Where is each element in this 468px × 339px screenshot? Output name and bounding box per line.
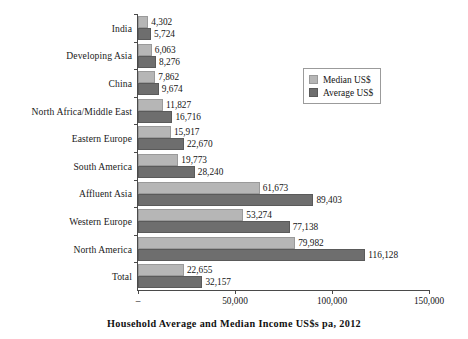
y-axis-tick bbox=[134, 14, 138, 15]
bar-value-label: 77,138 bbox=[293, 222, 319, 232]
chart-category-row: North Africa/Middle East11,82716,716 bbox=[138, 97, 429, 125]
x-axis-tick bbox=[429, 290, 430, 294]
chart-category-row: Eastern Europe15,91722,670 bbox=[138, 124, 429, 152]
x-axis-tick-label: 50,000 bbox=[222, 296, 248, 306]
category-label: Western Europe bbox=[69, 215, 132, 226]
chart-legend: Median US$ Average US$ bbox=[303, 68, 381, 104]
bar-value-label: 15,917 bbox=[174, 127, 200, 137]
bar-average: 5,724 bbox=[138, 28, 151, 40]
y-axis-tick bbox=[134, 180, 138, 181]
income-bar-chart: India4,3025,724Developing Asia6,0638,276… bbox=[0, 0, 468, 339]
y-axis-tick bbox=[134, 152, 138, 153]
category-label: Total bbox=[112, 271, 132, 282]
bar-average: 28,240 bbox=[138, 166, 195, 178]
chart-category-row: Western Europe53,27477,138 bbox=[138, 207, 429, 235]
y-axis-tick bbox=[134, 124, 138, 125]
chart-category-row: Developing Asia6,0638,276 bbox=[138, 42, 429, 70]
bar-average: 116,128 bbox=[138, 249, 365, 261]
chart-category-row: India4,3025,724 bbox=[138, 14, 429, 42]
bar-value-label: 22,655 bbox=[187, 265, 213, 275]
bar-average: 77,138 bbox=[138, 221, 290, 233]
bar-median: 6,063 bbox=[138, 44, 152, 56]
x-axis-tick-label: – bbox=[136, 296, 141, 306]
bar-value-label: 79,982 bbox=[298, 238, 324, 248]
bar-value-label: 4,302 bbox=[151, 17, 172, 27]
bar-average: 16,716 bbox=[138, 111, 172, 123]
legend-label-median: Median US$ bbox=[323, 75, 371, 85]
bar-value-label: 5,724 bbox=[154, 29, 175, 39]
bar-value-label: 16,716 bbox=[175, 112, 201, 122]
bar-average: 9,674 bbox=[138, 83, 159, 95]
bar-value-label: 7,862 bbox=[158, 72, 179, 82]
bar-value-label: 9,674 bbox=[162, 84, 183, 94]
bar-median: 11,827 bbox=[138, 99, 163, 111]
legend-label-average: Average US$ bbox=[323, 88, 373, 98]
plot-area: India4,3025,724Developing Asia6,0638,276… bbox=[138, 14, 429, 290]
y-axis-tick bbox=[134, 97, 138, 98]
bar-average: 8,276 bbox=[138, 56, 156, 68]
y-axis-tick bbox=[134, 235, 138, 236]
bar-average: 32,157 bbox=[138, 276, 202, 288]
category-label: Affluent Asia bbox=[79, 188, 132, 199]
bar-average: 89,403 bbox=[138, 194, 313, 206]
category-label: Eastern Europe bbox=[72, 133, 132, 144]
legend-swatch-median-icon bbox=[309, 75, 318, 84]
x-axis-tick-label: 100,000 bbox=[317, 296, 347, 306]
x-axis-line bbox=[137, 290, 429, 291]
x-axis-tick bbox=[138, 290, 139, 294]
category-label: India bbox=[112, 22, 132, 33]
bar-median: 53,274 bbox=[138, 209, 243, 221]
x-axis-tick bbox=[332, 290, 333, 294]
category-label: South America bbox=[73, 160, 132, 171]
bar-value-label: 8,276 bbox=[159, 57, 180, 67]
legend-item-median[interactable]: Median US$ bbox=[309, 73, 373, 86]
bar-average: 22,670 bbox=[138, 138, 184, 150]
chart-category-row: South America19,77328,240 bbox=[138, 152, 429, 180]
bar-median: 7,862 bbox=[138, 71, 155, 83]
category-label: North Africa/Middle East bbox=[32, 105, 132, 116]
bar-median: 15,917 bbox=[138, 126, 171, 138]
bar-value-label: 32,157 bbox=[205, 277, 231, 287]
bar-value-label: 53,274 bbox=[246, 210, 272, 220]
category-label: China bbox=[109, 77, 132, 88]
y-axis-tick bbox=[134, 262, 138, 263]
bar-value-label: 22,670 bbox=[187, 139, 213, 149]
x-axis-title: Household Average and Median Income US$s… bbox=[0, 318, 468, 329]
chart-category-row: China7,8629,674 bbox=[138, 69, 429, 97]
bar-value-label: 61,673 bbox=[263, 183, 289, 193]
x-axis-tick bbox=[235, 290, 236, 294]
bar-median: 22,655 bbox=[138, 264, 184, 276]
bar-median: 19,773 bbox=[138, 154, 178, 166]
bar-value-label: 28,240 bbox=[198, 167, 224, 177]
chart-category-row: Total22,65532,157 bbox=[138, 262, 429, 290]
bar-value-label: 6,063 bbox=[155, 45, 176, 55]
bar-value-label: 89,403 bbox=[316, 195, 342, 205]
bar-median: 61,673 bbox=[138, 182, 260, 194]
y-axis-tick bbox=[134, 69, 138, 70]
category-label: Developing Asia bbox=[66, 50, 132, 61]
y-axis-tick bbox=[134, 207, 138, 208]
bar-median: 4,302 bbox=[138, 16, 148, 28]
x-axis-tick-label: 150,000 bbox=[414, 296, 444, 306]
category-label: North America bbox=[73, 243, 132, 254]
bar-value-label: 19,773 bbox=[181, 155, 207, 165]
legend-swatch-average-icon bbox=[309, 88, 318, 97]
bar-value-label: 11,827 bbox=[166, 100, 191, 110]
chart-category-row: Affluent Asia61,67389,403 bbox=[138, 180, 429, 208]
bar-value-label: 116,128 bbox=[368, 250, 398, 260]
chart-category-row: North America79,982116,128 bbox=[138, 235, 429, 263]
legend-item-average[interactable]: Average US$ bbox=[309, 86, 373, 99]
y-axis-tick bbox=[134, 42, 138, 43]
bar-median: 79,982 bbox=[138, 237, 295, 249]
